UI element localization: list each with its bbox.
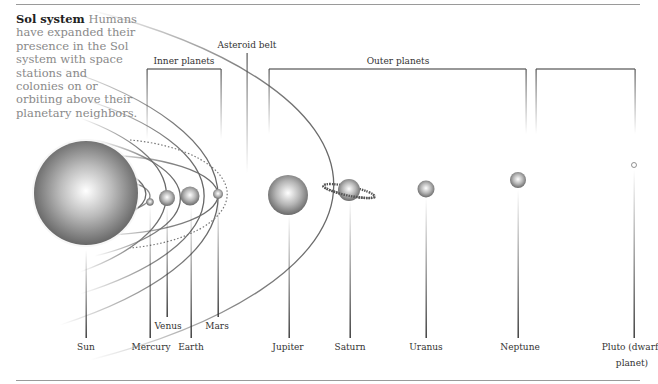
label-sun: Sun — [77, 342, 95, 352]
earth — [181, 187, 200, 206]
jupiter — [268, 175, 308, 215]
inner-planets-label: Inner planets — [153, 56, 214, 66]
label-saturn: Saturn — [334, 342, 365, 352]
label-mars: Mars — [205, 321, 229, 331]
mercury — [147, 199, 154, 206]
outer-planets-label: Outer planets — [367, 56, 430, 66]
asteroid-belt-pointer — [247, 53, 248, 173]
label-neptune: Neptune — [500, 342, 540, 352]
pluto-bracket — [536, 69, 636, 134]
mars — [213, 189, 223, 199]
neptune — [510, 172, 526, 188]
label-mercury: Mercury — [131, 342, 170, 352]
label-venus: Venus — [154, 321, 181, 331]
pluto — [632, 163, 637, 168]
label-earth: Earth — [178, 342, 204, 352]
label-uranus: Uranus — [409, 342, 442, 352]
sun — [34, 141, 138, 245]
asteroid-belt-label: Asteroid belt — [218, 40, 277, 50]
venus — [159, 190, 175, 206]
label-jupiter: Jupiter — [272, 342, 303, 352]
bottom-rule — [16, 380, 640, 381]
inner-planets-bracket — [147, 69, 222, 139]
outer-planets-bracket — [269, 69, 527, 134]
saturn — [323, 179, 376, 201]
uranus — [418, 181, 435, 198]
label-pluto: Pluto (dwarf — [602, 342, 658, 352]
label-pluto-line2: planet) — [616, 358, 648, 368]
